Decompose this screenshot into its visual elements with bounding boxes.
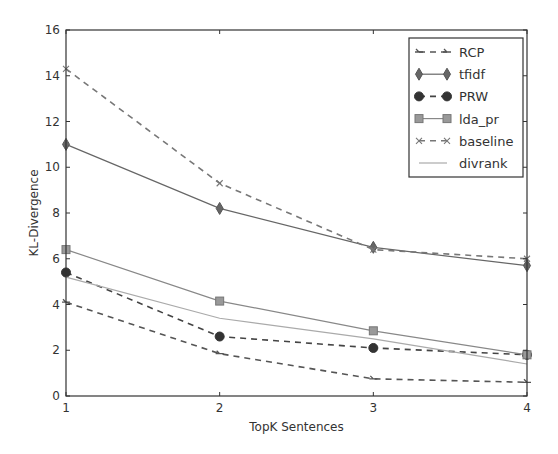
y-tick-label: 2 [52, 343, 60, 357]
y-tick-label: 10 [45, 160, 60, 174]
chart: 1234 0246810121416 TopK Sentences KL-Div… [0, 0, 558, 454]
x-tick-label: 2 [216, 401, 224, 415]
legend-label: divrank [459, 156, 508, 171]
y-axis-label: KL-Divergence [27, 169, 41, 256]
y-tick-label: 8 [52, 206, 60, 220]
y-tick-label: 6 [52, 252, 60, 266]
legend: RCPtfidfPRWlda_prbaselinedivrank [409, 38, 523, 177]
series-line [66, 272, 527, 354]
series-PRW [62, 268, 532, 359]
y-tick-label: 0 [52, 389, 60, 403]
data-point [369, 343, 378, 352]
y-tick-label: 4 [52, 298, 60, 312]
legend-marker [443, 115, 451, 123]
data-point [369, 327, 377, 335]
legend-marker [415, 92, 424, 101]
x-tick-label: 4 [523, 401, 531, 415]
series-line [66, 277, 527, 364]
data-point [215, 332, 224, 341]
x-tick-label: 1 [62, 401, 70, 415]
legend-marker [443, 92, 452, 101]
legend-label: tfidf [459, 67, 486, 82]
legend-marker [415, 115, 423, 123]
series-RCP [62, 299, 531, 382]
x-axis-label: TopK Sentences [248, 420, 343, 434]
data-point [217, 180, 223, 186]
series-line [66, 250, 527, 355]
data-point [369, 376, 377, 379]
legend-label: PRW [459, 89, 488, 104]
data-point [216, 297, 224, 305]
legend-label: baseline [459, 134, 513, 149]
data-point [216, 202, 223, 214]
x-tick-label: 3 [370, 401, 378, 415]
y-tick-label: 16 [45, 23, 60, 37]
series-divrank [66, 277, 527, 364]
legend-label: lda_pr [459, 112, 500, 127]
y-tick-label: 14 [45, 69, 60, 83]
y-tick-label: 12 [45, 115, 60, 129]
legend-label: RCP [459, 45, 484, 60]
